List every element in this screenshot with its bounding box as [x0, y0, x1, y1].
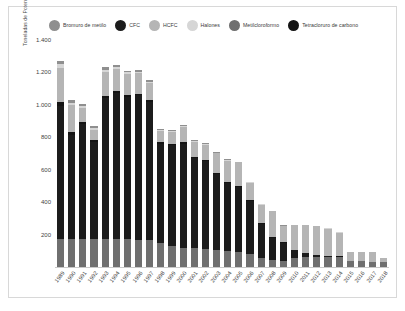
stacked-bar[interactable]: [302, 225, 309, 267]
stacked-bar[interactable]: [246, 182, 253, 267]
bar-segment: [180, 248, 187, 267]
bar-column[interactable]: 2017: [367, 40, 378, 267]
bar-segment: [90, 130, 97, 141]
bar-column[interactable]: 2010: [289, 40, 300, 267]
bar-column[interactable]: 1989: [55, 40, 66, 267]
stacked-bar[interactable]: [168, 130, 175, 267]
legend-swatch-icon: [49, 20, 60, 31]
legend-item-label: Tetracloruro de carbono: [302, 22, 358, 28]
x-axis-tick-label: 2003: [209, 270, 221, 284]
bar-column[interactable]: 2002: [200, 40, 211, 267]
x-axis-tick-label: 2018: [376, 270, 388, 284]
bar-segment: [102, 98, 109, 238]
bar-segment: [235, 252, 242, 267]
stacked-bar[interactable]: [347, 252, 354, 267]
bar-segment: [113, 93, 120, 239]
bar-column[interactable]: 1992: [88, 40, 99, 267]
bar-column[interactable]: 2009: [278, 40, 289, 267]
stacked-bar[interactable]: [191, 140, 198, 267]
stacked-bar[interactable]: [235, 162, 242, 268]
stacked-bar[interactable]: [380, 258, 387, 267]
stacked-bar[interactable]: [313, 226, 320, 267]
stacked-bar[interactable]: [68, 100, 75, 267]
stacked-bar[interactable]: [269, 211, 276, 267]
stacked-bar[interactable]: [369, 252, 376, 267]
bar-segment: [157, 131, 164, 142]
bar-segment: [213, 174, 220, 250]
bar-column[interactable]: 1999: [166, 40, 177, 267]
y-axis-tick-label: 200: [41, 232, 51, 238]
stacked-bar[interactable]: [146, 80, 153, 267]
stacked-bar[interactable]: [113, 65, 120, 267]
legend-item[interactable]: Bromuro de metilo: [49, 20, 106, 31]
legend-item[interactable]: HCFC: [149, 20, 178, 31]
x-axis-tick-label: 2012: [309, 270, 321, 284]
stacked-bar[interactable]: [258, 204, 265, 267]
plot-area: Toneladas de Potencial de Agotamiento de…: [55, 40, 389, 267]
bar-column[interactable]: 2015: [345, 40, 356, 267]
bar-column[interactable]: 2004: [222, 40, 233, 267]
bar-segment: [313, 226, 320, 254]
bar-segment: [102, 239, 109, 267]
bar-segment: [235, 187, 242, 252]
stacked-bar[interactable]: [358, 252, 365, 267]
bar-column[interactable]: 2005: [233, 40, 244, 267]
legend-item[interactable]: Tetracloruro de carbono: [288, 20, 358, 31]
bar-column[interactable]: 2000: [178, 40, 189, 267]
bar-segment: [146, 240, 153, 267]
bar-column[interactable]: 2014: [334, 40, 345, 267]
legend-item-label: HCFC: [163, 22, 178, 28]
bar-segment: [369, 252, 376, 262]
x-axis-tick-label: 2010: [287, 270, 299, 284]
bar-segment: [291, 225, 298, 249]
stacked-bar[interactable]: [180, 125, 187, 267]
bar-column[interactable]: 2012: [311, 40, 322, 267]
bar-column[interactable]: 2013: [322, 40, 333, 267]
stacked-bar[interactable]: [291, 225, 298, 267]
bar-segment: [191, 248, 198, 267]
bar-column[interactable]: 2011: [300, 40, 311, 267]
bar-column[interactable]: 2016: [356, 40, 367, 267]
stacked-bar[interactable]: [224, 159, 231, 267]
chart-legend: Bromuro de metiloCFCHCFCHalonesMetilclor…: [9, 15, 398, 35]
bar-segment: [213, 250, 220, 267]
legend-item[interactable]: CFC: [115, 20, 140, 31]
bar-segment: [135, 95, 142, 239]
bar-column[interactable]: 1994: [111, 40, 122, 267]
legend-item[interactable]: Halones: [187, 20, 220, 31]
stacked-bar[interactable]: [124, 71, 131, 267]
stacked-bar[interactable]: [90, 126, 97, 267]
bar-column[interactable]: 1993: [100, 40, 111, 267]
stacked-bar[interactable]: [280, 225, 287, 267]
bar-column[interactable]: 1997: [144, 40, 155, 267]
bar-column[interactable]: 1996: [133, 40, 144, 267]
bar-segment: [146, 102, 153, 241]
bar-column[interactable]: 1991: [77, 40, 88, 267]
stacked-bar[interactable]: [102, 67, 109, 267]
stacked-bar[interactable]: [57, 61, 64, 267]
bar-column[interactable]: 2003: [211, 40, 222, 267]
stacked-bar[interactable]: [324, 228, 331, 267]
stacked-bar[interactable]: [213, 152, 220, 267]
bar-segment: [113, 69, 120, 91]
bar-column[interactable]: 2006: [244, 40, 255, 267]
bar-column[interactable]: 1998: [155, 40, 166, 267]
bar-segment: [324, 229, 331, 256]
bar-segment: [202, 249, 209, 267]
bar-column[interactable]: 2008: [267, 40, 278, 267]
bar-segment: [224, 161, 231, 182]
bar-segment: [90, 142, 97, 239]
bar-column[interactable]: 2001: [189, 40, 200, 267]
stacked-bar[interactable]: [202, 143, 209, 267]
bar-column[interactable]: 1995: [122, 40, 133, 267]
x-axis-tick-label: 1991: [75, 270, 87, 284]
bar-column[interactable]: 1990: [66, 40, 77, 267]
legend-item[interactable]: Metilcloroformo: [229, 20, 279, 31]
legend-swatch-icon: [149, 20, 160, 31]
stacked-bar[interactable]: [135, 70, 142, 267]
stacked-bar[interactable]: [79, 104, 86, 267]
stacked-bar[interactable]: [336, 232, 343, 267]
bar-column[interactable]: 2018: [378, 40, 389, 267]
bar-column[interactable]: 2007: [256, 40, 267, 267]
stacked-bar[interactable]: [157, 129, 164, 267]
